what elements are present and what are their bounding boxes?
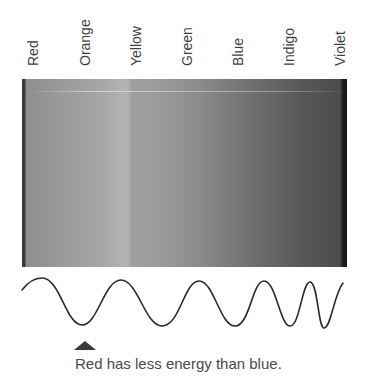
wave-curve [22,278,343,328]
spectrum-highlight-line [25,91,343,92]
color-label-indigo: Indigo [281,28,297,66]
spectrum-band [22,79,347,267]
caption-text: Red has less energy than blue. [75,355,282,373]
wavelength-wave [0,268,371,338]
color-label-orange: Orange [77,19,93,66]
color-label-blue: Blue [230,38,246,66]
color-label-yellow: Yellow [128,26,144,66]
color-label-violet: Violet [332,31,348,66]
color-label-green: Green [179,27,195,66]
up-triangle-icon [74,341,96,350]
color-label-red: Red [25,40,41,66]
